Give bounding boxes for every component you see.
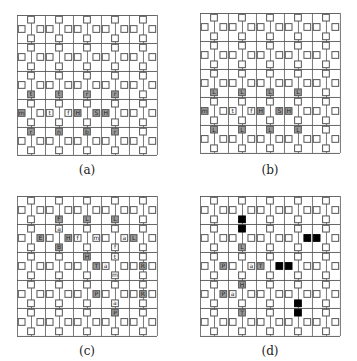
lattice-square (211, 272, 218, 279)
lattice-square (267, 253, 274, 260)
lattice-square (313, 291, 320, 298)
lattice-square (149, 291, 156, 298)
square-letter: S (277, 107, 281, 114)
lattice-square (18, 82, 25, 89)
lattice-square (112, 16, 119, 23)
lattice-square (211, 300, 218, 307)
lattice-square (37, 82, 44, 89)
lattice-square (285, 52, 292, 59)
lattice-square (276, 207, 283, 214)
lattice-square (140, 309, 147, 316)
blocked-square (276, 263, 283, 270)
lattice-square (37, 26, 44, 33)
lattice-square (93, 138, 100, 145)
square-letter: b (85, 128, 89, 135)
lattice-square (140, 35, 147, 42)
lattice-square (56, 119, 63, 126)
lattice-grid-b: LLLLmtfHSHLLLL (200, 13, 342, 155)
lattice-square (102, 138, 109, 145)
lattice-square (149, 26, 156, 33)
lattice-square (102, 54, 109, 61)
lattice-square (229, 80, 236, 87)
lattice-square (257, 207, 264, 214)
lattice-square (121, 82, 128, 89)
lattice-square (323, 98, 330, 105)
lattice-square (323, 89, 330, 96)
caption-b: (b) (250, 163, 290, 177)
lattice-square (18, 319, 25, 326)
lattice-square (323, 117, 330, 124)
lattice-square (102, 319, 109, 326)
lattice-square (28, 72, 35, 79)
square-letter: P (222, 290, 226, 297)
lattice-square (149, 319, 156, 326)
blocked-square (295, 309, 302, 316)
lattice-square (140, 197, 147, 204)
lattice-square (276, 235, 283, 242)
lattice-square (239, 33, 246, 40)
lattice-square (211, 14, 218, 21)
lattice-square (323, 33, 330, 40)
lattice-square (295, 70, 302, 77)
lattice-square (46, 291, 53, 298)
caption-d: (d) (250, 344, 290, 358)
lattice-square (121, 263, 128, 270)
lattice-square (65, 26, 72, 33)
lattice-square (18, 263, 25, 270)
lattice-square (313, 24, 320, 31)
square-letter: P (222, 262, 226, 269)
lattice-square (93, 207, 100, 214)
lattice-square (46, 82, 53, 89)
lattice-square (37, 263, 44, 270)
lattice-square (56, 147, 63, 154)
lattice-square (140, 44, 147, 51)
lattice-square (257, 136, 264, 143)
square-letter: a (122, 234, 126, 241)
lattice-square (28, 328, 35, 335)
lattice-square (93, 26, 100, 33)
lattice-square (276, 80, 283, 87)
lattice-square (28, 119, 35, 126)
lattice-square (211, 145, 218, 152)
lattice-square (295, 272, 302, 279)
lattice-square (56, 72, 63, 79)
lattice-square (28, 216, 35, 223)
square-letter: a (231, 290, 235, 297)
lattice-square (229, 24, 236, 31)
lattice-square (229, 52, 236, 59)
lattice-square (56, 16, 63, 23)
lattice-square (267, 300, 274, 307)
lattice-square (229, 263, 236, 270)
lattice-square (220, 319, 227, 326)
lattice-square (257, 291, 264, 298)
lattice-square (149, 138, 156, 145)
lattice-square (332, 108, 339, 115)
lattice-square (304, 319, 311, 326)
lattice-square (140, 281, 147, 288)
blocked-square (285, 263, 292, 270)
square-letter: R (141, 290, 145, 297)
lattice-square (28, 244, 35, 251)
lattice-square (56, 44, 63, 51)
lattice-square (267, 61, 274, 68)
lattice-square (130, 291, 137, 298)
lattice-square (229, 235, 236, 242)
square-letter: n (57, 128, 61, 135)
lattice-square (267, 244, 274, 251)
lattice-square (149, 54, 156, 61)
lattice-square (18, 235, 25, 242)
lattice-square (102, 235, 109, 242)
lattice-square (46, 235, 53, 242)
lattice-square (74, 319, 81, 326)
lattice-square (239, 300, 246, 307)
square-letter: T (93, 262, 98, 269)
lattice-square (295, 98, 302, 105)
square-letter: H (286, 107, 291, 114)
lattice-square (276, 52, 283, 59)
lattice-square (130, 319, 137, 326)
lattice-square (84, 272, 91, 279)
lattice-square (28, 253, 35, 260)
lattice-square (112, 225, 119, 232)
lattice-square (304, 291, 311, 298)
lattice-square (149, 263, 156, 270)
